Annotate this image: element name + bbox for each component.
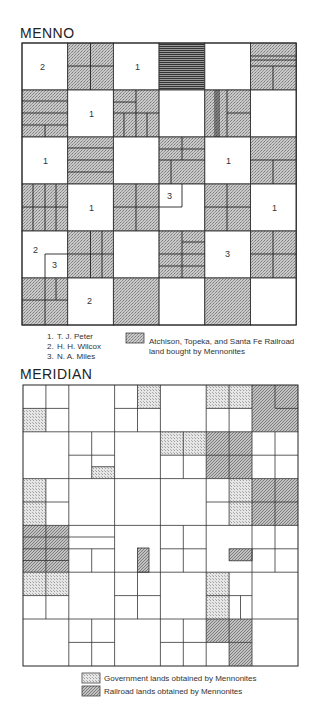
section-label: 3 <box>167 191 172 201</box>
railroad-legend-line1: Atchison, Topeka, and Santa Fe Railroad <box>149 337 294 347</box>
section-label: 2 <box>87 296 92 306</box>
owner-name: T. J. Peter <box>57 332 93 342</box>
railroad-legend-label: Railroad lands obtained by Mennonites <box>104 687 242 697</box>
owner-name: N. A. Miles <box>57 352 95 362</box>
owner-num: 2. <box>47 342 54 352</box>
owner-num: 3. <box>47 352 54 362</box>
owner-name: H. H. Wilcox <box>57 342 101 352</box>
section-label: 1 <box>226 156 231 166</box>
section-label: 2 <box>40 62 45 72</box>
section-label: 3 <box>225 249 230 259</box>
meridian-title: MERIDIAN <box>20 366 92 382</box>
owner-num: 1. <box>47 332 54 342</box>
railroad-legend-line2: land bought by Mennonites <box>149 347 245 357</box>
section-label: 3 <box>52 260 57 270</box>
section-label: 1 <box>43 156 48 166</box>
government-legend-label: Government lands obtained by Mennonites <box>104 674 257 684</box>
section-label: 1 <box>89 109 94 119</box>
menno-sections <box>22 43 296 325</box>
section-label: 1 <box>135 62 140 72</box>
section-label: 2 <box>33 245 38 255</box>
section-label: 1 <box>272 203 277 213</box>
section-label: 1 <box>89 203 94 213</box>
